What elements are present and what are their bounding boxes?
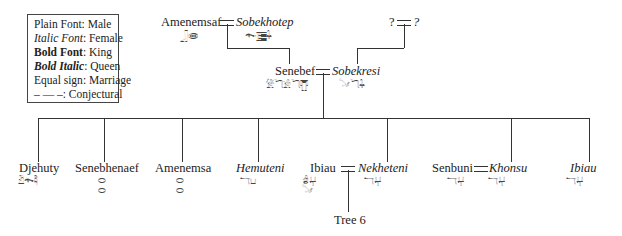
legend-item-conjectural: – — –: Conjectural [34,87,118,101]
legend-item-marriage: Equal sign: Marriage [34,73,118,87]
person-senbuni: Senbuni [432,161,473,175]
line [38,118,39,162]
legend-item-queen: Bold Italic: Queen [34,59,118,73]
hieroglyphs-amenemsa: ⬭ ⬭ [176,176,184,196]
person-senebef: Senebef [275,64,315,78]
line [38,118,590,119]
hieroglyphs-senebef: 𓀍𓆓𓀀𓆓𓊀 [265,80,308,90]
person-senebhenaef: Senebhenaef [75,161,139,175]
line [182,118,183,162]
hieroglyphs-nekheteni: 𓄓𓂔 [364,176,380,186]
person-nekheteni: Nekheteni [358,161,408,175]
line [289,48,290,64]
line [227,24,228,48]
legend-item-female: Italic Font: Female [34,31,118,45]
person-khonsu: Khonsu [489,161,527,175]
line [404,24,405,48]
person-sobekresi: Sobekresi [332,64,380,78]
person-hemuteni: Hemuteni [236,161,285,175]
person-amenemsa: Amenemsa [155,161,211,175]
line [357,48,404,49]
line [104,118,105,162]
hieroglyphs-senbuni: 𓄓𓂔 [447,176,463,186]
legend-item-king: Bold Font: King [34,45,118,59]
person-amenemsaf: Amenemsaf [161,15,221,29]
person-sobekhotep: Sobekhotep [236,15,294,29]
person-djehuty: Djehuty [19,161,59,175]
legend-box: Plain Font: Male Italic Font: Female Bol… [27,14,119,103]
hieroglyphs-khonsu: 𓄓𓂔 [488,176,504,186]
hieroglyphs-sobekresi: 𓍁𓆓𓇑 [339,80,365,90]
marriage-sign [474,166,488,172]
line [348,170,349,212]
hieroglyphs-ibiau-male: 𓁓𓂔 𓍁 [302,176,315,196]
line [511,118,512,162]
legend-item-male: Plain Font: Male [34,17,118,31]
line [387,118,388,162]
hieroglyphs-senebhenaef: ⬭ ⬭ [98,176,106,196]
person-ibiau-female: Ibiau [570,161,596,175]
hieroglyphs-hemuteni: 𓄓𓂓 [240,176,255,186]
line [589,118,590,162]
person-unknown-husband: ? [389,15,395,29]
hieroglyphs-sobekhotep: 𓆜𓊂𓇑 [245,31,272,41]
person-unknown-wife: ? [413,15,419,29]
person-ibiau-male: Ibiau [310,161,336,175]
line [227,48,289,49]
tree-6-reference: Tree 6 [334,213,366,227]
line [323,73,324,118]
hieroglyphs-ibiau-female: 𓄓𓂔 [566,176,582,186]
hieroglyphs-amenemsaf: 𓃀𓂏 [180,31,197,41]
hieroglyphs-djehuty: 𓁟𓆜𓄻 [18,176,38,186]
line [357,48,358,64]
line [258,118,259,162]
